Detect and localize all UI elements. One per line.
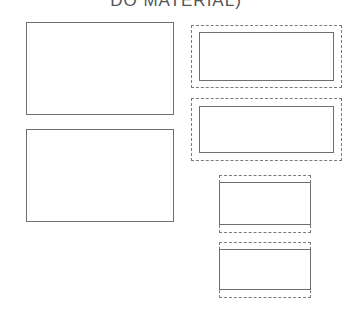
left-box-1 (26, 22, 174, 115)
left-box-2 (26, 129, 174, 222)
right-group-1-inner-box (199, 32, 334, 81)
right-group-4-inner-box (219, 249, 311, 290)
diagram-title: DO MATERIAL) (0, 0, 352, 11)
right-group-2-inner-box (199, 106, 334, 153)
right-group-3-inner-box (219, 182, 311, 225)
